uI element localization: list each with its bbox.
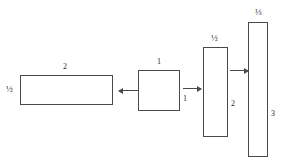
arrow-tall-to-tallest	[230, 70, 248, 71]
rect-tall-side-label: 2	[231, 100, 235, 108]
rect-tallest	[248, 22, 268, 157]
rect-square-top-label: 1	[157, 58, 161, 66]
rect-tallest-top-label: ⅓	[255, 8, 262, 17]
rect-wide	[20, 75, 113, 105]
rect-tall	[203, 47, 228, 137]
rect-tallest-side-label: 3	[271, 110, 275, 118]
rect-wide-side-label: ½	[6, 85, 13, 94]
figure-canvas: 2 ½ 1 1 ½ 2 ⅓ 3	[0, 0, 282, 165]
rect-wide-top-label: 2	[63, 63, 67, 71]
rect-tall-top-label: ½	[211, 34, 218, 43]
rect-square	[138, 70, 180, 111]
rect-square-side-label: 1	[183, 95, 187, 103]
arrow-square-to-tall	[183, 88, 201, 89]
arrow-square-to-wide	[119, 90, 139, 91]
